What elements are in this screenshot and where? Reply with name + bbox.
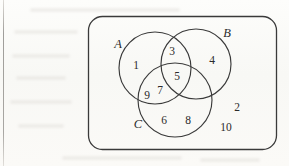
set-a-label: A <box>113 37 122 51</box>
set-c-label: C <box>134 117 143 131</box>
venn-diagram-figure: A B C 1 3 4 5 7 9 6 8 2 10 <box>0 0 289 166</box>
set-b-circle <box>161 29 231 99</box>
set-a-circle <box>119 32 191 104</box>
region-a-only-value: 1 <box>133 59 139 71</box>
region-c-only-right-value: 8 <box>185 114 191 126</box>
region-a-b-c-value: 5 <box>174 70 180 82</box>
region-a-and-b-value: 3 <box>169 45 175 57</box>
set-b-label: B <box>223 26 231 40</box>
region-c-only-left-value: 6 <box>161 114 167 126</box>
region-outside-lower-value: 10 <box>220 121 232 133</box>
region-b-only-value: 4 <box>209 54 215 66</box>
region-a-and-c-left-value: 9 <box>144 89 150 101</box>
region-outside-upper-value: 2 <box>234 101 240 113</box>
region-a-and-c-right-value: 7 <box>157 84 163 96</box>
venn-diagram-canvas: A B C 1 3 4 5 7 9 6 8 2 10 <box>0 0 289 166</box>
